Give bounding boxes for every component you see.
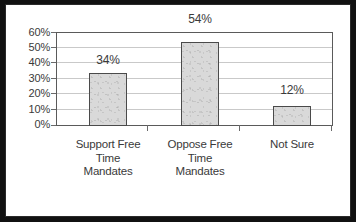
y-tick-label-40: 40% [10, 57, 50, 68]
data-label-not-sure: 12% [262, 84, 322, 96]
data-label-support-free-time-mandates: 34% [78, 54, 138, 66]
y-tick-label-50: 50% [10, 42, 50, 53]
y-tick-label-30: 30% [10, 73, 50, 84]
bar-chart: 60% 50% 40% 30% 20% 10% 0% [6, 5, 352, 218]
x-axis-category-label-oppose-free-time-mandates: Oppose Free Time Mandates [156, 138, 244, 179]
bar-oppose-free-time-mandates[interactable] [181, 42, 219, 126]
x-axis-tick-2 [239, 125, 240, 131]
y-tick-label-10: 10% [10, 104, 50, 115]
x-axis-category-label-not-sure: Not Sure [248, 138, 336, 152]
y-tick-label-60: 60% [10, 27, 50, 38]
x-axis-tick-3 [331, 125, 332, 131]
x-axis-category-label-support-free-time-mandates: Support Free Time Mandates [64, 138, 152, 179]
y-axis-labels: 60% 50% 40% 30% 20% 10% 0% [6, 5, 50, 135]
bar-not-sure[interactable] [273, 106, 311, 126]
bar-texture [182, 43, 218, 125]
scanned-page-border: 60% 50% 40% 30% 20% 10% 0% [0, 0, 356, 222]
data-label-oppose-free-time-mandates: 54% [170, 13, 230, 25]
chart-paper: 60% 50% 40% 30% 20% 10% 0% [5, 4, 351, 217]
y-tick-label-20: 20% [10, 88, 50, 99]
bar-support-free-time-mandates[interactable] [89, 73, 127, 126]
y-tick-label-0: 0% [10, 119, 50, 130]
bar-texture [90, 74, 126, 125]
bar-texture [274, 107, 310, 125]
x-axis-tick-1 [147, 125, 148, 131]
